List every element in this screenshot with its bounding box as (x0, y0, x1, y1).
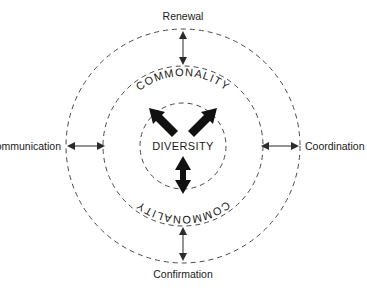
diversity-label: DIVERSITY (152, 140, 214, 152)
label-confirmation: Confirmation (153, 268, 213, 280)
commonality-label-top: COMMONALITY (134, 66, 233, 93)
connector-arrow-left (67, 142, 105, 150)
label-renewal: Renewal (163, 10, 204, 22)
commonality-label-bottom: COMMONALITY (134, 199, 233, 226)
connector-arrow-right (261, 142, 299, 150)
concentric-circles-diagram: COMMONALITY COMMONALITY DIVERSITY (0, 0, 367, 288)
connector-arrow-bottom (179, 227, 187, 261)
connector-arrow-top (179, 31, 187, 65)
diagram-canvas: COMMONALITY COMMONALITY DIVERSITY (0, 0, 367, 288)
label-coordination: Coordination (305, 140, 365, 152)
label-communication: Communication (0, 140, 61, 152)
thick-arrow-northeast (188, 108, 217, 137)
thick-arrow-northwest (149, 108, 178, 137)
